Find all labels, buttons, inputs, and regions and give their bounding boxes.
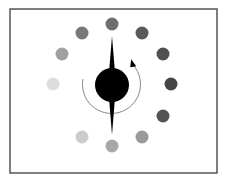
ring-dot-3 bbox=[165, 78, 178, 91]
diagram-stage bbox=[0, 0, 228, 179]
ring-dot-10 bbox=[76, 27, 89, 40]
center-hub bbox=[95, 68, 129, 102]
ring-dot-1 bbox=[136, 27, 149, 40]
ring-dot-9 bbox=[56, 48, 69, 61]
rotation-dial-diagram bbox=[0, 0, 228, 179]
ring-dot-6 bbox=[106, 140, 119, 153]
ring-dot-5 bbox=[136, 131, 149, 144]
ring-dot-4 bbox=[157, 110, 170, 123]
ring-dot-2 bbox=[157, 48, 170, 61]
ring-dot-8 bbox=[47, 78, 60, 91]
ring-dot-0 bbox=[106, 18, 119, 31]
ring-dot-7 bbox=[76, 131, 89, 144]
